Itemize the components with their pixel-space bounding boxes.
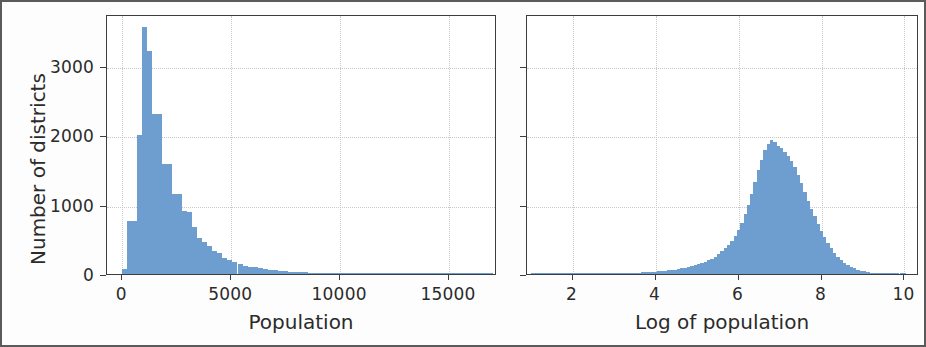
y-axis-tick (100, 275, 106, 276)
axes-frame-right (526, 15, 918, 275)
gridline-vertical (122, 16, 123, 274)
gridline-vertical (904, 16, 905, 274)
y-axis-tick (520, 206, 526, 207)
gridline-vertical (656, 16, 657, 274)
x-axis-tick (903, 275, 904, 280)
axis-label-y-left: Number of districts (26, 73, 50, 265)
x-axis-tick (339, 275, 340, 280)
x-axis-tick (121, 275, 122, 280)
y-axis-tick (520, 67, 526, 68)
gridline-vertical (573, 16, 574, 274)
y-axis-tick-label: 3000 (44, 57, 94, 77)
histogram-bar (903, 273, 906, 274)
x-axis-tick-label: 6 (732, 284, 743, 304)
y-axis-tick (100, 67, 106, 68)
x-axis-tick (655, 275, 656, 280)
axis-label-x-right: Log of population (635, 310, 809, 334)
y-axis-tick-label: 0 (44, 265, 94, 285)
x-axis-tick-label: 4 (649, 284, 660, 304)
x-axis-tick (448, 275, 449, 280)
x-axis-tick-label: 10000 (312, 284, 367, 304)
y-axis-tick (100, 136, 106, 137)
x-axis-tick-label: 5000 (208, 284, 252, 304)
x-axis-tick-label: 10 (892, 284, 914, 304)
y-axis-tick (520, 136, 526, 137)
x-axis-tick (738, 275, 739, 280)
gridline-horizontal (527, 207, 917, 208)
gridline-vertical (231, 16, 232, 274)
x-axis-tick (821, 275, 822, 280)
x-axis-tick-label: 2 (566, 284, 577, 304)
gridline-vertical (340, 16, 341, 274)
x-axis-tick (572, 275, 573, 280)
y-axis-tick (520, 275, 526, 276)
gridline-horizontal (527, 137, 917, 138)
gridline-horizontal (107, 137, 495, 138)
x-axis-tick-label: 15000 (421, 284, 476, 304)
y-axis-tick-label: 2000 (44, 126, 94, 146)
plot-area-left (107, 16, 495, 274)
y-axis-tick (100, 206, 106, 207)
figure-container: 0500010000150000100020003000 Population … (0, 0, 926, 347)
x-axis-tick-label: 0 (116, 284, 127, 304)
axes-frame-left (106, 15, 496, 275)
gridline-vertical (449, 16, 450, 274)
x-axis-tick (230, 275, 231, 280)
histogram-bar (488, 273, 493, 274)
x-axis-tick-label: 8 (815, 284, 826, 304)
gridline-horizontal (527, 68, 917, 69)
axis-label-x-left: Population (248, 310, 353, 334)
gridline-horizontal (107, 68, 495, 69)
plot-area-right (527, 16, 917, 274)
y-axis-tick-label: 1000 (44, 196, 94, 216)
